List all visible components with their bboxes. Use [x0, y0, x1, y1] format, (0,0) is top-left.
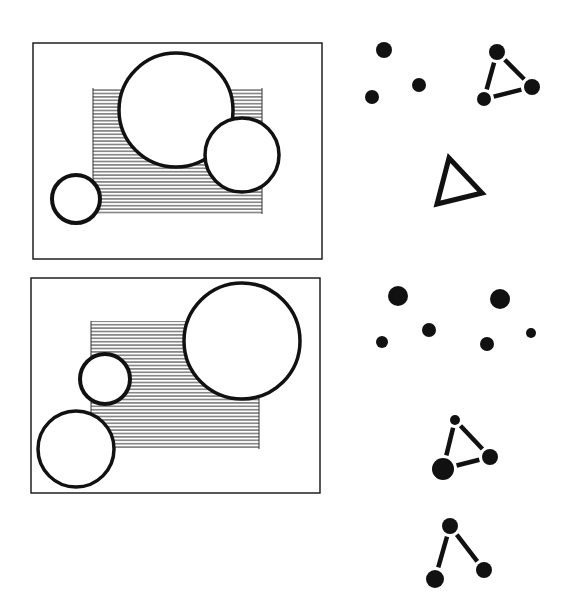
graph-node-dot: [489, 44, 505, 60]
graph-node-dot: [422, 323, 436, 337]
bottom-scattered-dots-right: [480, 289, 536, 351]
small-middle-circle: [80, 354, 130, 404]
bottom-connected-triangle: [432, 415, 498, 480]
graph-node-dot: [526, 328, 536, 338]
graph-node-dot: [376, 42, 392, 58]
outline-triangle: [437, 158, 482, 204]
graph-node-dot: [442, 518, 458, 534]
bottom-open-graph: [426, 518, 492, 588]
graph-edge: [446, 428, 453, 456]
large-circle: [184, 283, 300, 399]
graph-edge: [457, 460, 480, 466]
top-connected-triangle: [477, 44, 540, 106]
top-scattered-dots: [365, 42, 426, 104]
graph-edge: [457, 535, 478, 562]
right-circle: [205, 118, 279, 192]
graph-edge: [487, 63, 494, 90]
graph-edge: [494, 90, 522, 97]
graph-node-dot: [432, 458, 454, 480]
bottom-scattered-dots-left: [376, 286, 436, 348]
graphs-layer: [365, 42, 540, 588]
graph-node-dot: [412, 78, 426, 92]
graph-node-dot: [476, 562, 492, 578]
panel-top: [33, 43, 322, 259]
graph-node-dot: [376, 336, 388, 348]
graph-node-dot: [480, 337, 494, 351]
graph-node-dot: [365, 90, 379, 104]
graph-edge: [438, 537, 447, 568]
graph-node-dot: [477, 92, 491, 106]
diagram-canvas: [0, 0, 569, 614]
graph-node-dot: [388, 286, 408, 306]
lower-left-circle: [38, 411, 114, 487]
graph-node-dot: [450, 415, 460, 425]
graph-node-dot: [426, 570, 444, 588]
graph-edge: [505, 60, 524, 79]
graph-node-dot: [490, 289, 510, 309]
graph-node-dot: [524, 79, 540, 95]
graph-edge: [460, 426, 482, 449]
small-left-circle: [52, 175, 100, 223]
panels-layer: [31, 43, 322, 493]
panel-bottom: [31, 278, 320, 493]
graph-node-dot: [482, 449, 498, 465]
